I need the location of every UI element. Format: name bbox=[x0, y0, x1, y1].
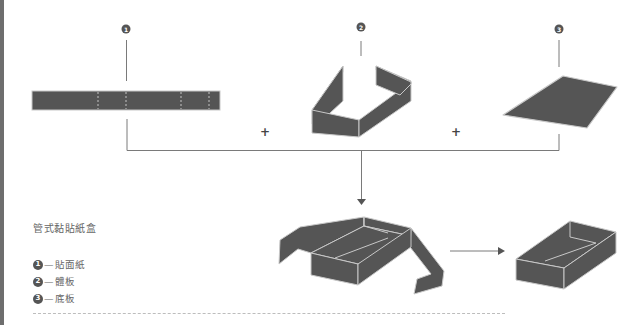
arrow-right-icon bbox=[450, 247, 505, 255]
number-badge: 3 bbox=[33, 294, 43, 304]
callout-3: 3 bbox=[555, 25, 564, 68]
box-assembly-diagram: 1 2 3 + + bbox=[0, 0, 639, 325]
diagram-caption: 管式黏貼紙盒 bbox=[33, 220, 96, 235]
callout-2: 2 bbox=[357, 23, 366, 57]
svg-text:3: 3 bbox=[557, 26, 561, 33]
part-wrap-paper-strip bbox=[32, 91, 220, 110]
assembly-in-progress bbox=[279, 217, 444, 294]
callout-1: 1 bbox=[122, 25, 131, 82]
legend-label: 底板 bbox=[55, 290, 75, 307]
svg-text:1: 1 bbox=[124, 26, 128, 33]
parts-legend: 1 — 貼面紙 2 — 體板 3 — 底板 bbox=[33, 256, 85, 307]
finished-box bbox=[516, 221, 616, 289]
number-badge: 1 bbox=[33, 260, 43, 270]
part-body-board bbox=[312, 66, 411, 137]
arrow-down-icon bbox=[357, 199, 366, 205]
part-base-board bbox=[503, 76, 617, 128]
number-badge: 2 bbox=[33, 277, 43, 287]
legend-item-wrap-paper: 1 — 貼面紙 bbox=[33, 256, 85, 273]
dotted-divider bbox=[33, 313, 505, 314]
legend-item-body-board: 2 — 體板 bbox=[33, 273, 85, 290]
legend-label: 體板 bbox=[55, 273, 75, 290]
plus-sign-2: + bbox=[451, 125, 461, 139]
svg-text:2: 2 bbox=[359, 24, 363, 31]
plus-sign-1: + bbox=[260, 125, 270, 139]
legend-label: 貼面紙 bbox=[55, 256, 85, 273]
legend-item-base-board: 3 — 底板 bbox=[33, 290, 85, 307]
